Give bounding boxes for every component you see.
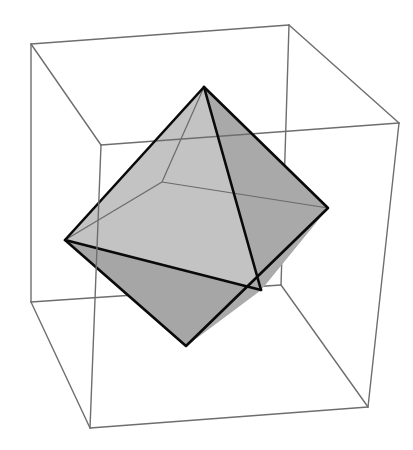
box-edge-back-top [31,25,289,44]
octahedron-diagram [0,0,413,450]
box-edge-front-left-vertical [90,145,101,428]
box-edge-front-bottom [90,407,368,428]
box-edge-top-left [31,44,101,145]
octahedron [65,87,399,346]
box-edge-top-right [289,25,399,123]
diagram-canvas [0,0,413,450]
box-edge-bottom-right [281,285,368,407]
box-edge-bottom-left [31,302,90,428]
box-edge-front-right-vertical [368,123,399,407]
